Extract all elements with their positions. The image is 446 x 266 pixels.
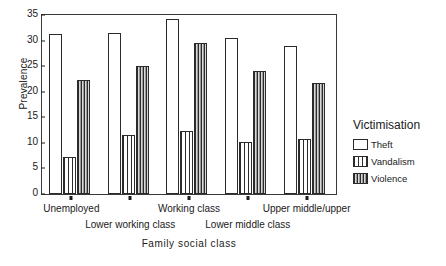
legend-item[interactable]: Violence xyxy=(353,173,445,184)
legend-swatch-violence xyxy=(353,173,368,184)
bar-vandalism xyxy=(239,142,252,194)
bar-violence xyxy=(136,66,149,194)
legend: Victimisation TheftVandalismViolence xyxy=(353,118,445,190)
bar-theft xyxy=(284,46,297,194)
y-tick-mark xyxy=(41,142,45,143)
legend-label: Vandalism xyxy=(371,156,415,167)
x-tick-mark xyxy=(188,196,191,200)
legend-swatch-vandalism xyxy=(353,156,368,167)
bar-theft xyxy=(225,38,238,194)
bar-vandalism xyxy=(298,139,311,194)
bar-violence xyxy=(312,83,325,194)
bar-vandalism xyxy=(180,131,193,194)
bar-theft xyxy=(108,33,121,194)
y-tick-mark xyxy=(41,194,45,195)
legend-item[interactable]: Vandalism xyxy=(353,156,445,167)
x-tick-mark xyxy=(305,196,308,200)
x-tick-mark xyxy=(70,196,73,200)
x-category-label: Lower working class xyxy=(85,219,175,230)
y-tick-mark xyxy=(41,117,45,118)
bar-violence xyxy=(194,43,207,194)
y-tick-label: 5 xyxy=(32,162,38,172)
y-tick-label: 20 xyxy=(27,86,38,96)
y-tick-label: 15 xyxy=(27,111,38,121)
legend-item[interactable]: Theft xyxy=(353,139,445,150)
y-tick-label: 10 xyxy=(27,137,38,147)
bar-theft xyxy=(49,34,62,194)
x-category-label: Unemployed xyxy=(43,203,99,214)
x-category-label: Working class xyxy=(158,203,220,214)
bar-violence xyxy=(77,80,90,194)
x-category-label: Lower middle class xyxy=(205,219,290,230)
y-tick-label: 0 xyxy=(32,188,38,198)
bar-chart: Prevalence 05101520253035 UnemployedLowe… xyxy=(0,0,446,266)
bar-group xyxy=(277,15,336,194)
x-tick-mark xyxy=(246,196,249,200)
y-tick-mark xyxy=(41,168,45,169)
y-tick-mark xyxy=(41,40,45,41)
legend-label: Theft xyxy=(371,139,393,150)
x-category-label: Upper middle/upper xyxy=(263,203,351,214)
y-tick-mark xyxy=(41,15,45,16)
legend-title: Victimisation xyxy=(353,118,445,132)
bar-group xyxy=(160,15,219,194)
bar-violence xyxy=(253,71,266,194)
y-tick-mark xyxy=(41,66,45,67)
bar-theft xyxy=(166,19,179,194)
bar-group xyxy=(218,15,277,194)
bar-group xyxy=(42,15,101,194)
y-tick-label: 35 xyxy=(27,9,38,19)
legend-swatch-theft xyxy=(353,139,368,150)
x-axis-title: Family social class xyxy=(142,238,237,249)
bar-vandalism xyxy=(122,135,135,194)
y-axis-ticks: 05101520253035 xyxy=(18,14,38,195)
bars-layer xyxy=(42,15,336,194)
legend-label: Violence xyxy=(371,173,407,184)
y-tick-label: 25 xyxy=(27,60,38,70)
bar-vandalism xyxy=(63,157,76,194)
y-tick-label: 30 xyxy=(27,35,38,45)
x-tick-mark xyxy=(129,196,132,200)
y-tick-mark xyxy=(41,91,45,92)
legend-items: TheftVandalismViolence xyxy=(353,139,445,184)
bar-group xyxy=(101,15,160,194)
